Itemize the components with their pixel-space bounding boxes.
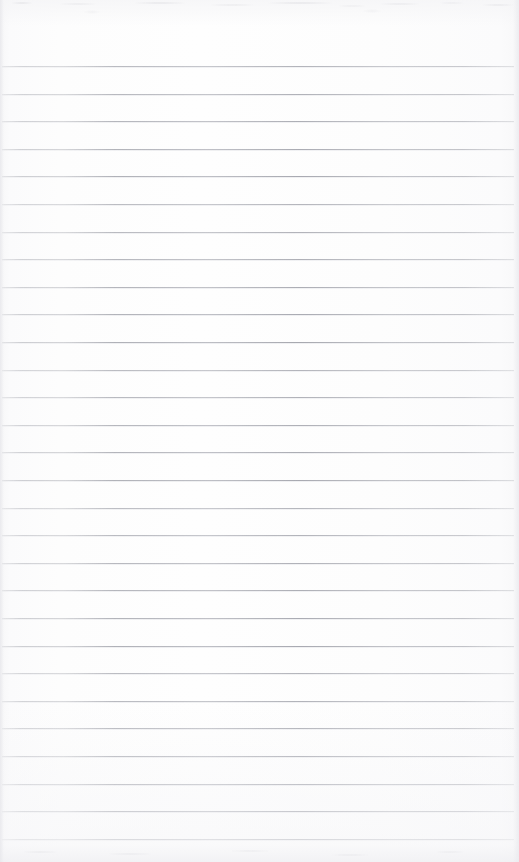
rule-line [2,314,514,315]
rule-line [2,784,514,785]
rule-line [2,590,514,591]
rule-line [2,204,514,205]
rule-line [2,452,514,453]
rule-line [2,66,514,67]
rule-line [2,811,514,812]
rule-line [2,480,514,481]
rule-line [2,508,514,509]
rule-line [2,397,514,398]
rule-line [2,176,514,177]
rule-line [2,425,514,426]
rule-line [2,728,514,729]
rule-line [2,618,514,619]
rule-line [2,646,514,647]
rule-line [2,701,514,702]
rule-line [2,673,514,674]
scanned-page [0,0,519,862]
rule-line [2,535,514,536]
rule-line [2,232,514,233]
rule-line [2,287,514,288]
rule-line [2,259,514,260]
rule-line [2,370,514,371]
rule-line [2,756,514,757]
rule-line [2,149,514,150]
rule-line [2,342,514,343]
rule-line [2,94,514,95]
rule-line [2,121,514,122]
ruled-lines-layer [0,0,519,862]
rule-line [2,839,514,840]
rule-line [2,563,514,564]
